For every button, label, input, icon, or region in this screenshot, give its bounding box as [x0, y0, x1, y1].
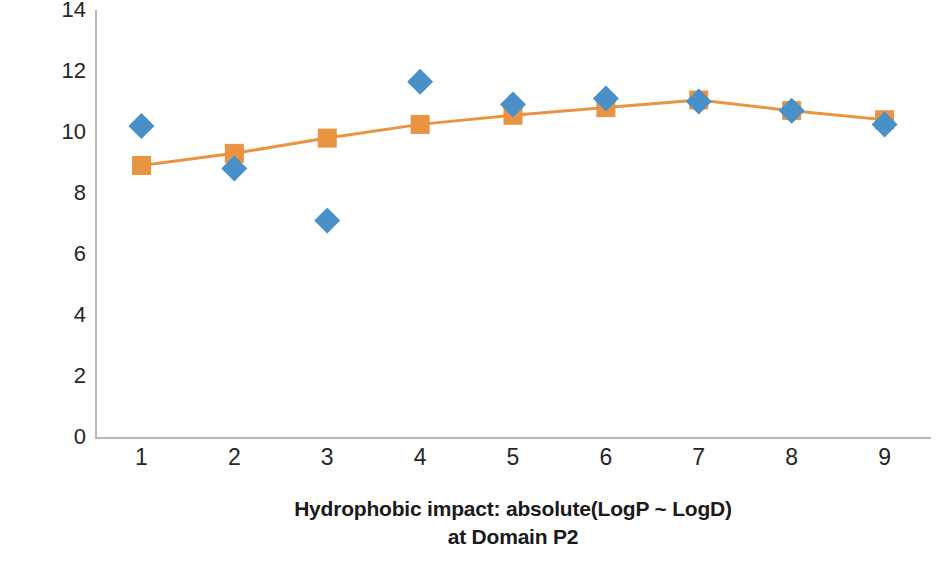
x-tick-label: 4 — [390, 446, 450, 469]
x-axis-tick-labels: 123456789 — [95, 446, 931, 480]
y-tick-label: 0 — [40, 426, 86, 448]
data-point-square — [411, 115, 429, 133]
data-series-layer — [95, 10, 931, 437]
data-point-diamond — [128, 113, 154, 139]
y-tick-label: 2 — [40, 365, 86, 387]
x-axis-title-line1: Hydrophobic impact: absolute(LogP ~ LogD… — [294, 497, 732, 520]
x-axis-title: Hydrophobic impact: absolute(LogP ~ LogD… — [95, 495, 931, 552]
y-tick-label: 14 — [40, 0, 86, 21]
x-tick-label: 5 — [483, 446, 543, 469]
y-tick-label: 6 — [40, 243, 86, 265]
x-tick-label: 3 — [297, 446, 357, 469]
y-axis-title-wrapper: Interaction efficacy at tenor point — [0, 2, 40, 442]
data-point-square — [318, 129, 336, 147]
x-tick-label: 2 — [204, 446, 264, 469]
x-tick-label: 1 — [111, 446, 171, 469]
x-axis-line — [95, 437, 931, 439]
y-tick-label: 12 — [40, 60, 86, 82]
y-tick-label: 10 — [40, 121, 86, 143]
data-point-square — [132, 157, 150, 175]
plot-area — [95, 10, 931, 437]
y-axis-title: Interaction efficacy at tenor point — [0, 0, 40, 42]
x-tick-label: 9 — [855, 446, 915, 469]
data-point-diamond — [314, 207, 340, 233]
x-axis-title-line2: at Domain P2 — [95, 523, 931, 551]
chart-container: Interaction efficacy at tenor point 0246… — [0, 0, 936, 570]
x-tick-label: 7 — [669, 446, 729, 469]
y-tick-label: 8 — [40, 182, 86, 204]
y-axis-tick-labels: 02468101214 — [36, 0, 86, 570]
data-point-diamond — [407, 69, 433, 95]
x-tick-label: 8 — [762, 446, 822, 469]
y-tick-label: 4 — [40, 304, 86, 326]
x-tick-label: 6 — [576, 446, 636, 469]
